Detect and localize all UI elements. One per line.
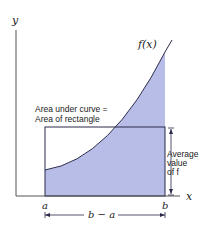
- curve-label: f(x): [137, 38, 157, 51]
- area-annotation-line1: Area under curve =: [35, 104, 108, 114]
- average-value-diagram: y x f(x) Area under curve = Area of rect…: [0, 0, 212, 232]
- tick-label-b: b: [162, 200, 168, 211]
- y-axis-label: y: [11, 14, 19, 27]
- area-under-curve: [45, 52, 165, 196]
- arrowhead-down-icon: [169, 189, 173, 194]
- avg-annotation-line3: of f: [167, 167, 179, 177]
- arrowhead-right-icon: [160, 213, 165, 217]
- interval-label: b − a: [88, 209, 115, 220]
- x-axis-label: x: [186, 190, 193, 203]
- area-annotation-line2: Area of rectangle: [35, 114, 100, 124]
- arrowhead-up-icon: [169, 129, 173, 134]
- arrowhead-left-icon: [45, 213, 50, 217]
- tick-label-a: a: [42, 200, 48, 211]
- diagram-canvas: y x f(x) Area under curve = Area of rect…: [0, 0, 212, 232]
